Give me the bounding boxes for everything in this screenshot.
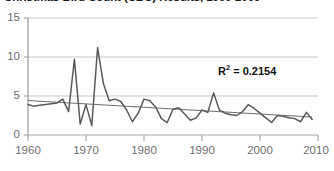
y-tick-label-15: 15	[0, 11, 20, 23]
x-tick-label-1990: 1990	[182, 144, 222, 156]
y-tick-label-0: 0	[0, 128, 20, 140]
r2-label: R	[218, 65, 226, 77]
x-tick-label-2000: 2000	[240, 144, 280, 156]
x-tick-label-1960: 1960	[8, 144, 48, 156]
x-tick-label-1980: 1980	[124, 144, 164, 156]
y-tick-label-10: 10	[0, 50, 20, 62]
x-axis-ticks	[28, 135, 318, 141]
x-tick-label-2010: 2010	[296, 144, 334, 156]
data-series-line	[28, 48, 312, 126]
r-squared-annotation: R2 = 0.2154	[218, 63, 276, 77]
r2-value: = 0.2154	[230, 65, 276, 77]
x-tick-label-1970: 1970	[66, 144, 106, 156]
y-tick-label-5: 5	[0, 89, 20, 101]
